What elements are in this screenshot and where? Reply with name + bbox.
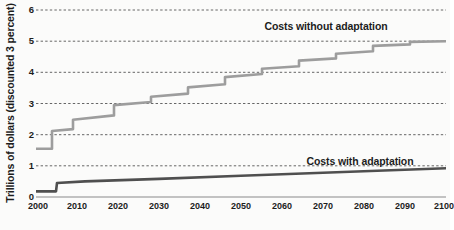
x-tick-2100: 2100 (434, 200, 454, 212)
y-tick-3: 3 (20, 99, 34, 109)
plot-area (36, 4, 446, 198)
x-tick-2020: 2020 (108, 200, 128, 212)
gridlines (36, 10, 446, 166)
y-axis-title: Trillions of dollars (discounted 3 perce… (2, 3, 18, 203)
series-label-costs-with-adaptation: Costs with adaptation (307, 155, 414, 167)
x-tick-2000: 2000 (28, 200, 48, 212)
y-tick-4: 4 (20, 67, 34, 77)
series-costs-with-adaptation (36, 168, 446, 191)
chart-svg (36, 4, 446, 198)
y-tick-5: 5 (20, 36, 34, 46)
x-axis-tick-labels: 2000 2010 2020 2030 2040 2050 2060 2070 … (36, 200, 446, 216)
y-tick-1: 1 (20, 161, 34, 171)
x-tick-2050: 2050 (231, 200, 251, 212)
y-tick-6: 6 (20, 5, 34, 15)
x-tick-2030: 2030 (149, 200, 169, 212)
series-label-costs-without-adaptation: Costs without adaptation (264, 20, 387, 32)
x-tick-2040: 2040 (190, 200, 210, 212)
x-tick-2070: 2070 (313, 200, 333, 212)
y-tick-2: 2 (20, 130, 34, 140)
x-tick-2080: 2080 (354, 200, 374, 212)
x-tick-2010: 2010 (67, 200, 87, 212)
y-axis-tick-labels: 6 5 4 3 2 1 0 (18, 4, 34, 198)
x-tick-2060: 2060 (272, 200, 292, 212)
series-costs-without-adaptation (36, 41, 446, 149)
x-tick-2090: 2090 (395, 200, 415, 212)
